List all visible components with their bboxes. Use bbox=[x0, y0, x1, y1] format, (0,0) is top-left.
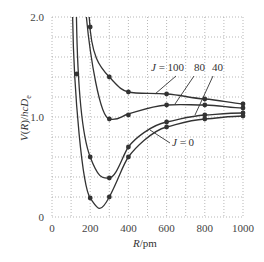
grid-lines bbox=[52, 17, 243, 217]
data-point bbox=[126, 113, 131, 118]
data-point bbox=[164, 120, 169, 125]
label-j0: J = 0 bbox=[172, 136, 195, 148]
label-j80: 80 bbox=[194, 61, 206, 73]
x-tick-label: 400 bbox=[120, 222, 137, 234]
data-point bbox=[202, 117, 207, 122]
potential-energy-chart: 0200400600800100001.02.0 J = 100 80 40 J… bbox=[0, 0, 264, 262]
y-tick-label: 2.0 bbox=[30, 11, 44, 23]
data-point bbox=[88, 25, 93, 30]
x-tick-label: 600 bbox=[158, 222, 175, 234]
data-point bbox=[74, 72, 79, 77]
curves bbox=[73, 17, 243, 208]
curve-j0 bbox=[73, 17, 243, 208]
data-point bbox=[107, 176, 112, 181]
data-point bbox=[164, 92, 169, 97]
x-tick-label: 1000 bbox=[232, 222, 255, 234]
data-point bbox=[88, 196, 93, 201]
axis-ticks: 0200400600800100001.02.0 bbox=[30, 11, 254, 234]
data-point bbox=[164, 125, 169, 130]
label-j100: J = 100 bbox=[151, 61, 185, 73]
y-tick-label: 1.0 bbox=[30, 111, 44, 123]
data-point bbox=[202, 103, 207, 108]
data-point bbox=[107, 195, 112, 200]
x-tick-label: 0 bbox=[49, 222, 55, 234]
data-point bbox=[126, 145, 131, 150]
data-point bbox=[88, 155, 93, 160]
data-point bbox=[126, 90, 131, 95]
data-markers bbox=[74, 25, 245, 201]
x-tick-label: 200 bbox=[82, 222, 99, 234]
data-point bbox=[126, 155, 131, 160]
data-point bbox=[241, 106, 246, 111]
data-point bbox=[107, 75, 112, 80]
y-tick-label: 0 bbox=[39, 211, 45, 223]
label-j40: 40 bbox=[212, 61, 224, 73]
x-axis-label: R/pm bbox=[132, 237, 157, 249]
curve-j40 bbox=[76, 17, 243, 178]
data-point bbox=[107, 117, 112, 122]
annotation-leaders bbox=[150, 76, 213, 143]
data-point bbox=[241, 114, 246, 119]
data-point bbox=[164, 103, 169, 108]
x-tick-label: 800 bbox=[197, 222, 214, 234]
